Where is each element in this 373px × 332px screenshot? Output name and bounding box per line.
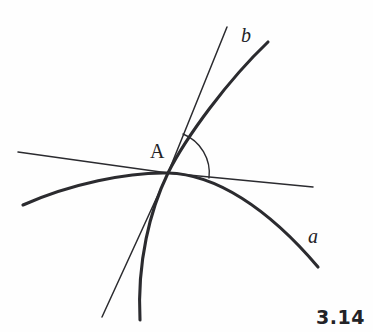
curve-a bbox=[23, 173, 318, 267]
geometry-figure: A b a 3.14 bbox=[0, 0, 373, 332]
figure-canvas bbox=[0, 0, 373, 332]
curve-label-b: b bbox=[241, 25, 251, 45]
curve-label-a: a bbox=[308, 226, 318, 246]
figure-caption: 3.14 bbox=[316, 306, 365, 328]
point-label-a: A bbox=[150, 141, 164, 161]
